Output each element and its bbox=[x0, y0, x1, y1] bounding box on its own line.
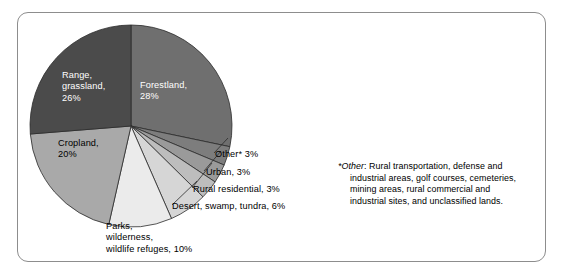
pie-label-desert-swamp-tundra: Desert, swamp, tundra, 6% bbox=[172, 201, 285, 213]
pie-slice-group bbox=[30, 25, 232, 227]
pie-label-other: Other* 3% bbox=[215, 149, 258, 161]
footnote-line-3: mining areas, rural commercial and bbox=[338, 184, 534, 196]
pie-label-cropland: Cropland, 20% bbox=[58, 138, 99, 161]
footnote-term: Other bbox=[342, 161, 364, 171]
pie-label-forestland: Forestland, 28% bbox=[140, 80, 187, 103]
footnote-marker-term: *Other bbox=[338, 161, 364, 171]
footnote-line-4: industrial sites, and unclassified lands… bbox=[338, 196, 534, 208]
footnote: *Other: Rural transportation, defense an… bbox=[338, 161, 534, 207]
footnote-line-2: industrial areas, golf courses, cemeteri… bbox=[338, 173, 534, 185]
pie-label-rural-residential: Rural residential, 3% bbox=[193, 184, 280, 196]
pie-label-urban: Urban, 3% bbox=[206, 167, 250, 179]
pie-label-range-grassland: Range, grassland, 26% bbox=[62, 70, 105, 104]
pie-label-parks-wilderness: Parks, wilderness, wildlife refuges, 10% bbox=[106, 221, 192, 255]
footnote-line-1: Rural transportation, defense and bbox=[367, 161, 503, 171]
